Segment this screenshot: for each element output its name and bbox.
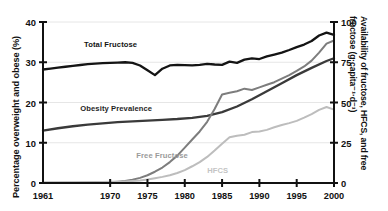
x-tick-label: 1970: [100, 191, 120, 201]
y-left-tick-label: 30: [10, 57, 36, 68]
series-line-obesity-prevalence: [43, 58, 334, 130]
chart-figure: Percentage overweight and obese (%) Avai…: [0, 0, 388, 211]
y-right-tick-label: 75: [341, 57, 351, 68]
y-right-tick-label: 25: [341, 137, 351, 148]
y-left-tick-label: 20: [10, 97, 36, 108]
x-tick-label: 1985: [212, 191, 232, 201]
series-annotation-obesity-prevalence: Obesity Prevalence: [80, 104, 152, 113]
y-left-tick-label: 10: [10, 137, 36, 148]
series-annotation-hfcs: HFCS: [207, 166, 228, 175]
x-tick-label: 1980: [175, 191, 195, 201]
x-tick-label: 1995: [286, 191, 306, 201]
y-right-tick-label: 100: [341, 17, 357, 28]
y-right-tick-label: 50: [341, 97, 351, 108]
x-tick-label: 1961: [33, 191, 53, 201]
series-annotation-total-fructose: Total Fructose: [84, 40, 137, 49]
x-tick-label: 1990: [249, 191, 269, 201]
plot-area: [0, 0, 388, 211]
series-annotation-free-fructose: Free Fructose: [136, 151, 188, 160]
y-left-tick-label: 0: [10, 178, 36, 189]
y-left-tick-label: 40: [10, 17, 36, 28]
x-tick-label: 1975: [137, 191, 157, 201]
x-tick-label: 2000: [324, 191, 344, 201]
y-right-tick-label: 0: [341, 178, 346, 189]
